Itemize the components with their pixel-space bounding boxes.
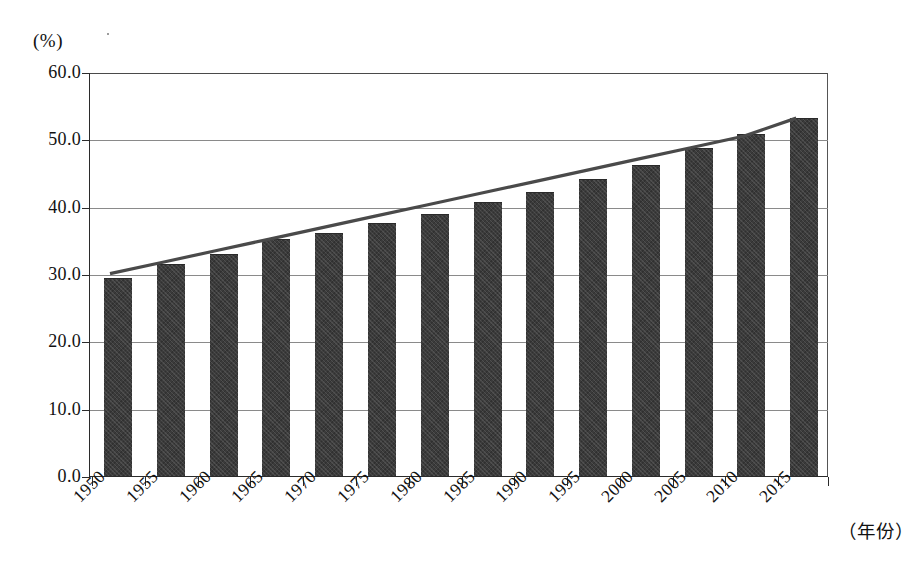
gridline [90, 140, 828, 141]
bar [632, 165, 660, 476]
y-axis-label: 30.0 [25, 264, 81, 285]
bar [685, 148, 713, 476]
bar [421, 214, 449, 476]
bar [262, 239, 290, 476]
plot-top-rule [90, 73, 828, 74]
y-axis-label: 10.0 [25, 399, 81, 420]
scan-artifact-speck [107, 33, 109, 35]
y-axis-tick [82, 73, 90, 74]
y-axis-tick [82, 140, 90, 141]
bar [579, 179, 607, 476]
gridline [90, 410, 828, 411]
bar [790, 118, 818, 476]
gridline [90, 342, 828, 343]
bar [315, 233, 343, 476]
y-axis-label: 20.0 [25, 331, 81, 352]
y-axis-label: 40.0 [25, 197, 81, 218]
bar [526, 192, 554, 476]
y-axis-label: 50.0 [25, 129, 81, 150]
plot-area [89, 73, 828, 477]
bar [157, 264, 185, 476]
y-axis-tick [82, 342, 90, 343]
x-axis-end-tick [828, 477, 829, 486]
y-axis-label: 0.0 [25, 466, 81, 487]
gridline [90, 275, 828, 276]
y-axis-tick [82, 275, 90, 276]
bar [104, 278, 132, 476]
bar [474, 202, 502, 476]
bar [368, 223, 396, 477]
y-axis-tick [82, 410, 90, 411]
y-axis-unit-label: (%) [33, 30, 63, 52]
y-axis-tick [82, 208, 90, 209]
x-axis-caption: （年份） [838, 517, 906, 543]
bar [737, 134, 765, 476]
gridline [90, 208, 828, 209]
y-axis-label: 60.0 [25, 62, 81, 83]
bar [210, 254, 238, 476]
